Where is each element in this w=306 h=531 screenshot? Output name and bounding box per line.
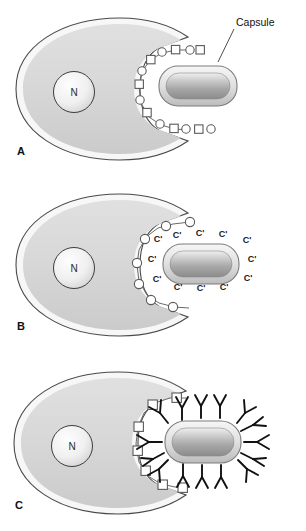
receptor-square	[170, 124, 178, 132]
receptor-square	[143, 108, 151, 116]
receptor-circle	[138, 67, 146, 75]
nucleus-label-b: N	[70, 263, 77, 274]
receptor-square	[134, 422, 143, 431]
complement-label: C'	[244, 273, 253, 283]
complement-label: C'	[219, 229, 228, 239]
receptor-circle	[182, 125, 190, 133]
receptor-square	[171, 45, 179, 53]
complement-label: C'	[173, 230, 182, 240]
receptor-circle	[207, 125, 215, 133]
panel-c: N	[0, 352, 306, 531]
receptor-circle	[158, 48, 166, 56]
phagocyte-cell-b	[16, 194, 188, 336]
antibody-y	[238, 460, 258, 482]
complement-label: C'	[196, 228, 205, 238]
opsonization-figure: N	[0, 0, 306, 531]
receptor-square	[147, 55, 155, 63]
receptor-circle	[136, 96, 144, 104]
nucleus-c: N	[52, 426, 93, 467]
antibody-y	[244, 435, 269, 449]
complement-label: C'	[248, 254, 257, 264]
antibody-y	[215, 465, 227, 488]
nucleus-b: N	[54, 248, 95, 289]
antibody-y	[241, 453, 266, 466]
capsule-callout-label: Capsule	[236, 16, 275, 28]
capsule-bacterium-c	[165, 421, 241, 463]
receptor-square	[135, 80, 143, 88]
antibody-y	[195, 395, 207, 418]
receptor-circle	[140, 234, 149, 243]
receptor-circle	[134, 279, 143, 288]
complement-label: C'	[220, 282, 229, 292]
complement-label: C'	[148, 254, 157, 264]
panel-letter-a: A	[17, 145, 25, 157]
antibody-y	[237, 400, 256, 423]
receptor-circle	[185, 217, 194, 226]
complement-label: C'	[174, 282, 183, 292]
complement-label: C'	[154, 234, 163, 244]
receptor-circle	[156, 120, 164, 128]
phagocyte-cell-c	[14, 372, 186, 514]
antibody-y	[137, 435, 162, 449]
antibody-y	[241, 417, 266, 431]
receptor-square	[196, 46, 204, 54]
nucleus-a: N	[54, 72, 95, 113]
capsule-bacterium-b	[163, 244, 239, 284]
complement-label: C'	[243, 235, 252, 245]
panel-letter-c: C	[15, 499, 23, 511]
receptor-square	[195, 125, 203, 133]
antibody-y	[148, 460, 168, 482]
capsule-bacterium-a	[159, 66, 237, 106]
receptor-circle	[186, 46, 194, 54]
antibody-y	[196, 465, 208, 488]
antibody-y	[141, 453, 164, 466]
receptor-circle	[168, 302, 177, 311]
complement-label: C'	[197, 283, 206, 293]
receptor-circle	[146, 295, 155, 304]
receptor-circle	[161, 221, 170, 230]
antibody-y	[176, 397, 188, 420]
antibody-y	[214, 395, 226, 418]
complement-label: C'	[153, 274, 162, 284]
nucleus-label-a: N	[70, 87, 77, 98]
panel-letter-b: B	[17, 320, 25, 332]
nucleus-label-c: N	[68, 441, 75, 452]
panel-a: N	[0, 0, 306, 180]
panel-b: N C' C' C' C' C' C'	[0, 180, 306, 352]
receptor-circle	[132, 258, 141, 267]
capsule-callout-a: Capsule	[218, 16, 275, 62]
